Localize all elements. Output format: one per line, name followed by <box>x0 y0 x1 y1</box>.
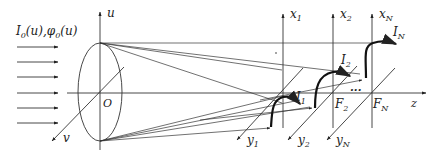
u-axis-label: u <box>107 6 115 20</box>
intensity-profile-2 <box>315 71 350 108</box>
y1-axis-label: y1 <box>246 133 259 149</box>
rays-from-bottom <box>100 80 362 141</box>
input-field-label: I0(u),φ0(u) <box>15 24 78 40</box>
focal-point-N-label: FN <box>372 97 389 113</box>
intensity-label-1: I1 <box>295 90 306 106</box>
dot-marker <box>275 52 277 54</box>
incident-beam-arrows <box>17 47 58 123</box>
intensity-label-2: I2 <box>340 53 351 69</box>
origin-label: O <box>103 97 112 110</box>
intensity-profile-N <box>366 41 396 78</box>
v-axis-label: v <box>63 131 70 145</box>
yN-axis-label: yN <box>335 133 351 149</box>
optical-focusing-diagram: I0(u),φ0(u) u v O z x1 x2 xN y1 y2 <box>0 0 439 157</box>
xN-axis-label: xN <box>379 7 394 23</box>
y2-axis-label: y2 <box>297 133 310 149</box>
z-axis-label: z <box>410 97 417 110</box>
intensity-label-N: IN <box>392 25 406 41</box>
focal-point-2-label: F2 <box>334 97 348 113</box>
v-axis <box>52 67 124 141</box>
focal-ellipsis: ··· <box>350 84 362 97</box>
x1-axis-label: x1 <box>290 7 302 23</box>
y1-axis <box>237 68 303 140</box>
rays-from-top <box>100 43 360 103</box>
x2-axis-label: x2 <box>340 7 352 23</box>
